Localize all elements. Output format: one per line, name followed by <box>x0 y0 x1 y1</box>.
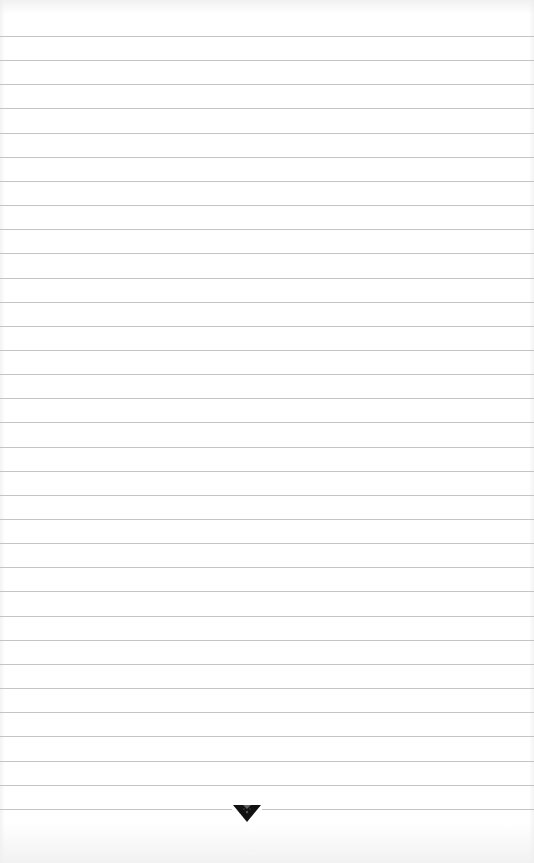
ruled-line <box>0 133 534 134</box>
ruled-line <box>0 519 534 520</box>
ruled-line <box>0 712 534 713</box>
ruled-line <box>0 205 534 206</box>
ruled-line <box>0 495 534 496</box>
ruled-line <box>0 447 534 448</box>
ruled-line <box>0 350 534 351</box>
ruled-line <box>0 640 534 641</box>
ruled-line <box>0 253 534 254</box>
ruled-line <box>0 157 534 158</box>
ruled-line <box>0 785 534 786</box>
ruled-line <box>0 736 534 737</box>
ruled-line <box>0 688 534 689</box>
ruled-line <box>0 326 534 327</box>
ruled-line <box>0 591 534 592</box>
ruled-line <box>0 302 534 303</box>
ruled-line <box>0 108 534 109</box>
ruled-line <box>0 229 534 230</box>
ruled-line <box>0 543 534 544</box>
ruled-line <box>0 84 534 85</box>
ruled-line <box>0 181 534 182</box>
ruled-line <box>0 374 534 375</box>
ruled-line <box>0 471 534 472</box>
ruled-line <box>0 664 534 665</box>
ruled-line <box>0 60 534 61</box>
ruled-line <box>0 36 534 37</box>
ruled-line <box>0 567 534 568</box>
ruled-line <box>0 278 534 279</box>
ruled-line <box>0 422 534 423</box>
lined-paper-page <box>0 0 534 863</box>
ruled-line <box>0 398 534 399</box>
ruled-line <box>0 761 534 762</box>
ruled-line <box>0 809 534 810</box>
ruled-line <box>0 616 534 617</box>
